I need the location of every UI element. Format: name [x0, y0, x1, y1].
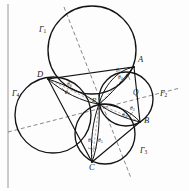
dot-point-b	[139, 121, 141, 123]
angle-label-theta-5: θ5	[98, 138, 102, 144]
circles-group	[15, 6, 153, 164]
point-label-d: D	[37, 70, 43, 79]
angle-label-theta-6-sub: 6	[91, 140, 93, 144]
point-label-b: B	[144, 116, 149, 125]
angle-label-theta-2-sub: 2	[121, 77, 123, 81]
angle-label-theta-5-sub: 5	[101, 140, 103, 144]
circle-label-gamma-3-sub: 3	[145, 149, 148, 155]
dashed-construction-lines	[8, 7, 180, 178]
angle-label-theta-4-sub: 4	[125, 115, 127, 119]
angle-label-theta-7: θ7	[65, 90, 69, 96]
circle-label-gamma-1-sub: 1	[44, 28, 47, 34]
dot-point-p	[98, 103, 101, 106]
angle-label-theta-3: θ3	[130, 106, 134, 112]
dot-point-d	[47, 78, 49, 80]
angle-label-theta-3-sub: 3	[133, 108, 135, 112]
angle-label-theta-4: θ4	[122, 113, 126, 119]
circle-gamma-1	[48, 6, 136, 94]
angle-label-theta-2: θ2	[118, 75, 122, 81]
dashed-diagonal-1	[64, 7, 131, 178]
point-label-a: A	[138, 55, 143, 64]
point-label-q: Q	[133, 89, 138, 97]
circle-label-gamma-4: Γ4	[12, 90, 19, 99]
geometry-figure: A B C D P Q Γ1 Γ2 Γ3 Γ4 θ1 θ2 θ3 θ4 θ5 θ…	[0, 0, 189, 191]
circle-label-gamma-4-sub: 4	[17, 92, 20, 98]
angle-label-theta-8-sub: 8	[70, 84, 72, 88]
circle-label-gamma-3: Γ3	[140, 147, 147, 156]
point-label-p: P	[92, 97, 96, 104]
angle-label-theta-7-sub: 7	[68, 92, 70, 96]
circle-label-gamma-2-sub: 2	[165, 92, 168, 98]
circle-label-gamma-2: Γ2	[160, 90, 167, 99]
angle-label-theta-8: θ8	[67, 82, 71, 88]
circle-label-gamma-1: Γ1	[39, 26, 46, 35]
point-label-c: C	[89, 163, 95, 172]
angle-label-theta-6: θ6	[88, 138, 92, 144]
dot-point-a	[133, 66, 135, 68]
